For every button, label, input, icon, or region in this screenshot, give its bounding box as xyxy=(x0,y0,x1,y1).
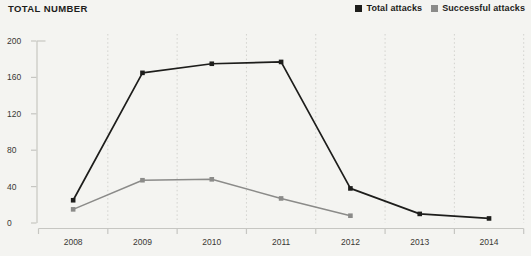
svg-text:120: 120 xyxy=(7,109,21,119)
chart-canvas: 0408012016020020082009201020112012201320… xyxy=(0,0,531,256)
svg-text:2011: 2011 xyxy=(272,237,291,247)
svg-text:80: 80 xyxy=(7,145,17,155)
svg-text:2013: 2013 xyxy=(410,237,429,247)
svg-text:200: 200 xyxy=(7,36,21,46)
svg-text:2012: 2012 xyxy=(341,237,360,247)
svg-text:160: 160 xyxy=(7,72,21,82)
svg-text:40: 40 xyxy=(7,182,17,192)
svg-text:2008: 2008 xyxy=(64,237,83,247)
svg-text:2010: 2010 xyxy=(202,237,221,247)
svg-text:2014: 2014 xyxy=(480,237,499,247)
svg-text:0: 0 xyxy=(7,218,12,228)
chart-stage: TOTAL NUMBER Total attacks Successful at… xyxy=(0,0,531,256)
svg-text:2009: 2009 xyxy=(133,237,152,247)
